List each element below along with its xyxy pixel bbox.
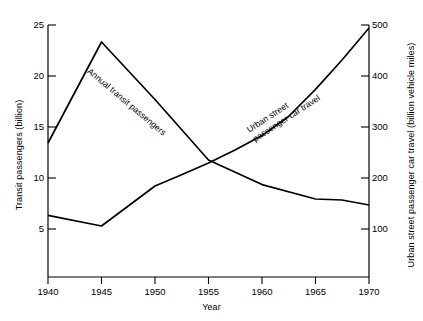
- x-tick-label-1970: 1970: [349, 287, 389, 297]
- right-axis-title: Urban street passenger car travel (billi…: [406, 40, 416, 270]
- left-tick-label-25: 25: [18, 20, 44, 30]
- left-axis-title: Transit passengers (billion): [14, 40, 24, 270]
- chart-figure: 25 20 15 10 5 500 400 300 200 100 1940 1…: [0, 0, 423, 321]
- x-tick-label-1960: 1960: [242, 287, 282, 297]
- x-tick-label-1940: 1940: [28, 287, 68, 297]
- right-tick-label-100: 100: [372, 224, 402, 234]
- right-tick-label-500: 500: [372, 20, 402, 30]
- right-tick-marks: [361, 25, 369, 229]
- x-tick-label-1955: 1955: [189, 287, 229, 297]
- series-line-transit-passengers: [48, 42, 369, 205]
- x-axis-title: Year: [0, 302, 423, 312]
- right-tick-label-300: 300: [372, 122, 402, 132]
- chart-canvas: [0, 0, 423, 321]
- right-tick-label-200: 200: [372, 173, 402, 183]
- left-tick-marks: [48, 25, 56, 229]
- x-tick-label-1950: 1950: [135, 287, 175, 297]
- right-tick-label-400: 400: [372, 71, 402, 81]
- x-tick-label-1965: 1965: [296, 287, 336, 297]
- series-line-car-travel: [48, 28, 369, 226]
- x-tick-label-1945: 1945: [82, 287, 122, 297]
- x-tick-marks: [48, 277, 369, 284]
